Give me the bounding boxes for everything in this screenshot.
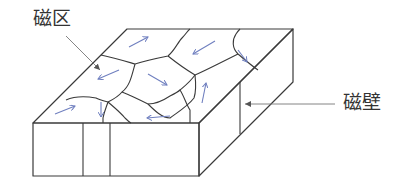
domain-walls-top: [66, 29, 258, 123]
block-outline: [33, 29, 293, 176]
magnetization-arrows: [55, 37, 247, 118]
domain-walls-front: [83, 123, 110, 176]
domain-leader-line: [66, 36, 100, 70]
front-face: [33, 123, 199, 176]
arrow-icon: [148, 74, 167, 85]
arrow-icon: [202, 83, 206, 103]
arrow-icon: [193, 41, 215, 54]
right-face: [199, 29, 293, 176]
magnetic-domain-label: 磁区: [33, 9, 71, 28]
top-face: [33, 29, 293, 123]
arrow-icon: [55, 106, 75, 114]
domain-wall-label: 磁壁: [343, 93, 381, 112]
arrow-icon: [238, 50, 247, 62]
arrow-icon: [129, 37, 148, 47]
arrow-icon: [98, 70, 119, 79]
